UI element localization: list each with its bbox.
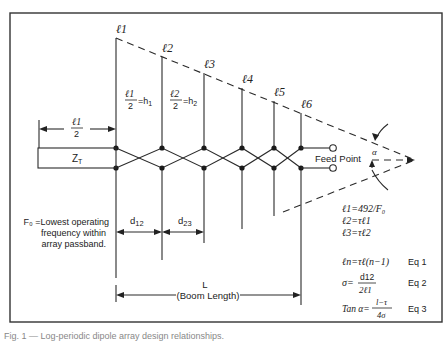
svg-text:Eq 2: Eq 2 [408, 278, 427, 288]
d12-label: d12 [130, 215, 144, 228]
length-formulas: ℓ1=492/F₀ ℓ2=τℓ1 ℓ3=τℓ2 [342, 203, 386, 238]
svg-text:(Boom Length): (Boom Length) [177, 290, 240, 301]
svg-text:ℓ1: ℓ1 [72, 116, 81, 127]
svg-text:ℓ6: ℓ6 [301, 97, 312, 111]
svg-text:ℓ1: ℓ1 [116, 22, 127, 36]
svg-text:σ=: σ= [342, 277, 354, 288]
lpda-diagram: ZT Feed Point α ℓ1 ℓ2 ℓ3 ℓ4 ℓ5 ℓ6 ℓ1 2 =… [0, 0, 446, 330]
feed-point-label: Feed Point [315, 153, 361, 164]
equation-2: σ= d12 2ℓ1 Eq 2 [342, 272, 427, 295]
svg-text:ℓ1=492/F₀: ℓ1=492/F₀ [342, 203, 386, 214]
half-length-label-1: ℓ1 2 =h1 [125, 88, 152, 111]
svg-text:frequency within: frequency within [41, 228, 106, 238]
svg-text:ℓ2: ℓ2 [170, 88, 179, 99]
svg-text:ℓ5: ℓ5 [274, 85, 285, 99]
svg-text:array passband.: array passband. [41, 239, 106, 249]
svg-text:ℓ4: ℓ4 [242, 72, 253, 86]
equation-1: ℓn=τℓ(n−1) Eq 1 [342, 256, 427, 268]
svg-text:=h2: =h2 [183, 96, 197, 107]
d23-label: d23 [178, 215, 192, 228]
svg-text:2: 2 [74, 129, 79, 139]
fo-note: F₀ =Lowest operating frequency within ar… [23, 217, 109, 249]
lower-elements [116, 168, 301, 305]
svg-text:4σ: 4σ [377, 310, 386, 320]
svg-text:ℓ1: ℓ1 [125, 88, 134, 99]
spacing-dimensions: d12 d23 [116, 215, 204, 235]
boom-length-dimension: L (Boom Length) [116, 279, 301, 302]
zt-label: ZT [72, 153, 83, 165]
svg-text:2ℓ1: 2ℓ1 [359, 285, 372, 295]
svg-text:ℓ3=τℓ2: ℓ3=τℓ2 [342, 227, 371, 238]
alpha-leader-lower [372, 170, 388, 190]
svg-text:2: 2 [128, 101, 133, 111]
svg-text:2: 2 [173, 101, 178, 111]
half-length-label-2: ℓ2 2 =h2 [170, 88, 197, 111]
equation-3: Tan α= l−τ 4σ Eq 3 [342, 297, 427, 320]
figure-caption: Fig. 1 — Log-periodic dipole array desig… [4, 331, 224, 341]
svg-text:ℓn=τℓ(n−1): ℓn=τℓ(n−1) [342, 256, 390, 268]
junction-dots [113, 145, 303, 170]
svg-text:d12: d12 [360, 272, 374, 282]
svg-text:Eq 3: Eq 3 [408, 304, 427, 314]
half-length-dimension: ℓ1 2 [39, 116, 116, 148]
svg-text:ℓ2: ℓ2 [162, 41, 173, 55]
svg-text:Tan α=: Tan α= [342, 304, 370, 314]
svg-text:ℓ3: ℓ3 [204, 57, 215, 71]
svg-text:F₀ =Lowest operating: F₀ =Lowest operating [23, 217, 109, 227]
upper-envelope-line [116, 38, 415, 160]
svg-text:L: L [202, 279, 207, 290]
crossed-feed-lines [116, 148, 301, 168]
svg-text:l−τ: l−τ [376, 297, 388, 307]
alpha-label: α [372, 147, 377, 157]
alpha-arrow-lower [369, 160, 375, 167]
svg-text:ℓ2=τℓ1: ℓ2=τℓ1 [342, 215, 371, 226]
svg-text:=h1: =h1 [138, 96, 152, 107]
svg-text:Eq 1: Eq 1 [408, 257, 427, 267]
